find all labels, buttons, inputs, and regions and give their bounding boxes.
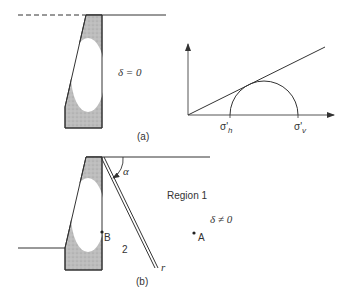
point-a-label: A: [198, 233, 205, 243]
caption-b: (b): [136, 277, 148, 287]
angle-alpha-arc: [113, 157, 123, 178]
region-1-label: Region 1: [167, 191, 207, 201]
point-a-marker: [192, 231, 195, 234]
sigma-h-symbol: σ': [220, 121, 228, 132]
failure-envelope-line: [188, 47, 325, 115]
gravity-wall-b: [65, 157, 105, 270]
mohr-circle-graph: [188, 44, 334, 118]
figure-b: [18, 157, 210, 270]
diagram-canvas: [0, 0, 350, 300]
sigma-v-subscript: v: [302, 126, 306, 135]
gravity-wall-a: [65, 15, 105, 128]
figure-a: [18, 15, 334, 128]
sigma-v-symbol: σ': [294, 121, 302, 132]
mohr-semicircle: [230, 81, 298, 115]
sigma-h-subscript: h: [228, 126, 232, 135]
sigma-h-label: σ'h: [220, 122, 233, 135]
caption-a: (a): [137, 132, 149, 142]
delta-nonzero-label: δ ≠ 0: [210, 214, 232, 225]
sigma-v-label: σ'v: [294, 122, 306, 135]
delta-zero-label: δ = 0: [118, 67, 142, 78]
region-2-label: 2: [122, 245, 128, 255]
alpha-label: α: [123, 166, 129, 177]
line-end-r-label: r: [161, 262, 165, 273]
rupture-line: [101, 157, 158, 268]
point-b-label: B: [104, 233, 111, 243]
